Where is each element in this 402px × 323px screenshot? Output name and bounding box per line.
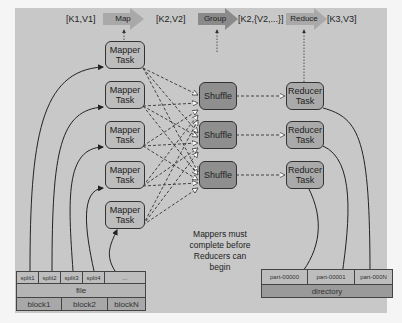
shuffle-node: Shuffle [199, 82, 237, 110]
kv2list-label: [K2,{V2,...}] [238, 14, 284, 24]
part-cell: part-000N [354, 269, 393, 285]
map-stage-label: Map [108, 14, 138, 23]
mapper-task: Mapper Task [105, 161, 145, 189]
kv3-label: [K3,V3] [327, 14, 357, 24]
reducer-task: Reducer Task [286, 121, 324, 149]
group-stage-label: Group [200, 14, 230, 23]
block-cell: block1 [16, 297, 62, 311]
block-cell: block2 [61, 297, 108, 311]
mapper-task: Mapper Task [105, 81, 145, 109]
reducer-task: Reducer Task [286, 161, 324, 189]
mappers-complete-note: Mappers must complete before Reducers ca… [180, 229, 260, 273]
shuffle-node: Shuffle [199, 161, 237, 189]
part-cell: part-00000 [261, 269, 308, 285]
reduce-stage-label: Reduce [288, 14, 320, 23]
shuffle-node: Shuffle [199, 121, 237, 149]
file-cell: file [16, 283, 146, 298]
mapper-task: Mapper Task [105, 201, 145, 229]
kv1-label: [K1,V1] [66, 14, 96, 24]
directory-cell: directory [261, 284, 393, 298]
reducer-task: Reducer Task [286, 82, 324, 110]
part-cell: part-00001 [307, 269, 355, 285]
mapper-task: Mapper Task [105, 121, 145, 149]
mapper-task: Mapper Task [105, 41, 145, 69]
kv2-label: [K2,V2] [156, 14, 186, 24]
block-cell: blockN [107, 297, 146, 311]
